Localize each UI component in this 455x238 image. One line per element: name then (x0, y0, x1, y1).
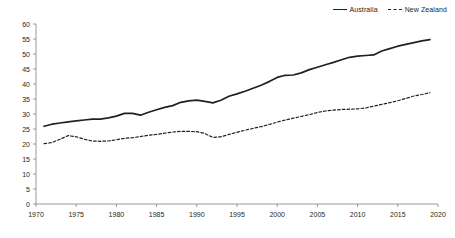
y-tick-label: 25 (22, 126, 30, 133)
y-tick-label: 30 (22, 111, 30, 118)
x-axis: 1970197519801985199019952000200520102015… (28, 204, 446, 218)
x-tick-group: 1970197519801985199019952000200520102015… (28, 204, 446, 218)
x-tick-label: 1985 (149, 211, 165, 218)
y-tick-group: 051015202530354045505560 (22, 21, 36, 208)
y-axis: 051015202530354045505560 (22, 21, 36, 208)
x-tick-label: 2005 (310, 211, 326, 218)
y-tick-label: 5 (26, 186, 30, 193)
x-tick-label: 1975 (68, 211, 84, 218)
x-tick-label: 2010 (350, 211, 366, 218)
plot-area: 051015202530354045505560 197019751980198… (0, 0, 455, 238)
y-tick-label: 45 (22, 66, 30, 73)
data-series-group (44, 40, 430, 144)
x-tick-label: 2020 (430, 211, 446, 218)
y-tick-label: 50 (22, 51, 30, 58)
y-tick-label: 20 (22, 141, 30, 148)
x-tick-label: 2000 (269, 211, 285, 218)
y-tick-label: 10 (22, 171, 30, 178)
line-chart: Australia New Zealand 051015202530354045… (0, 0, 455, 238)
y-tick-label: 55 (22, 36, 30, 43)
x-tick-label: 1970 (28, 211, 44, 218)
y-tick-label: 35 (22, 96, 30, 103)
y-tick-label: 40 (22, 81, 30, 88)
x-tick-label: 2015 (390, 211, 406, 218)
x-tick-label: 1995 (229, 211, 245, 218)
y-tick-label: 0 (26, 201, 30, 208)
y-tick-label: 15 (22, 156, 30, 163)
series-line-australia (44, 40, 430, 127)
x-tick-label: 1980 (109, 211, 125, 218)
x-tick-label: 1990 (189, 211, 205, 218)
y-tick-label: 60 (22, 21, 30, 28)
